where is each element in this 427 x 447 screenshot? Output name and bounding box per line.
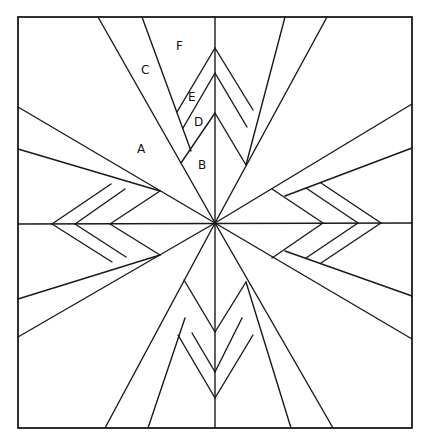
piece-label-c: C [141, 63, 149, 77]
pattern-lines [18, 17, 412, 428]
piece-label-b: B [198, 158, 206, 172]
quilt-block-diagram: FCEDAB [0, 0, 427, 447]
pattern-line [246, 17, 285, 165]
pattern-line [178, 335, 215, 398]
pattern-line [306, 188, 358, 223]
pattern-line [52, 184, 111, 224]
piece-label-f: F [176, 39, 183, 53]
piece-label-d: D [194, 115, 203, 129]
pattern-line [215, 282, 246, 332]
pattern-line [321, 223, 381, 263]
pattern-line [321, 183, 381, 223]
pattern-line [285, 251, 412, 296]
piece-label-e: E [188, 90, 196, 104]
pattern-line [215, 223, 333, 428]
pattern-line [18, 255, 160, 299]
pattern-line [110, 224, 160, 255]
pattern-line [215, 223, 412, 339]
pattern-line [184, 280, 215, 332]
pattern-line [246, 282, 291, 428]
pattern-line [215, 17, 327, 223]
pattern-line [215, 73, 247, 127]
pattern-line [272, 223, 323, 258]
pattern-line [192, 333, 215, 372]
pattern-line [215, 113, 246, 165]
pattern-line [215, 335, 253, 398]
pattern-line [18, 223, 215, 337]
pattern-line [285, 148, 412, 196]
pattern-line [52, 224, 112, 262]
pattern-line [142, 17, 191, 151]
pattern-line [306, 223, 358, 258]
pattern-line [148, 318, 185, 428]
pattern-line [177, 48, 215, 112]
pattern-line [215, 48, 253, 110]
pattern-line [110, 191, 160, 224]
piece-label-a: A [137, 142, 146, 156]
